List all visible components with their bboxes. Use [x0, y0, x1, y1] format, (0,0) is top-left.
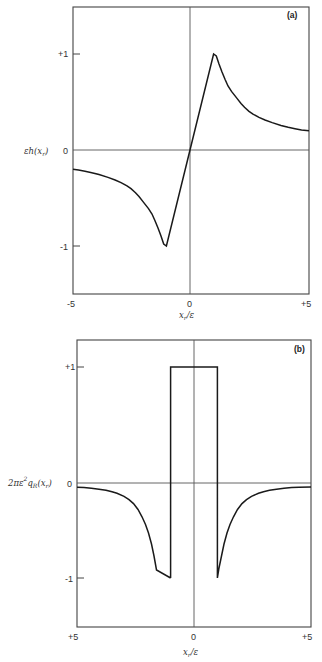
- x-axis-label-b: xr/ε: [183, 647, 199, 658]
- x-tick-label-b-left: +5: [68, 632, 78, 642]
- y-tick-label-a-bot: -1: [60, 242, 68, 252]
- y-tick-label-a-top: +1: [58, 49, 68, 59]
- chart-panel-a: (a) +1 0 -1 εh(xr) -5 0 +5 xr/ε: [24, 7, 311, 321]
- y-axis-label-a: εh(xr): [24, 146, 48, 157]
- y-tick-label-b-mid: 0: [67, 479, 72, 489]
- x-tick-label-a-left: -5: [67, 299, 75, 309]
- plot-frame-a: [73, 7, 309, 294]
- panel-label-a: (a): [287, 10, 298, 20]
- y-tick-label-a-mid: 0: [63, 146, 68, 156]
- x-tick-label-b-mid: 0: [191, 632, 196, 642]
- y-tick-label-b-bot: -1: [65, 574, 73, 584]
- x-axis-label-a: xr/ε: [179, 310, 195, 321]
- x-tick-label-a-right: +5: [301, 299, 311, 309]
- panel-label-b: (b): [294, 344, 305, 354]
- y-axis-label-b: 2πε2qR(xr): [7, 475, 52, 489]
- y-tick-label-b-top: +1: [65, 362, 75, 372]
- figure: (a) +1 0 -1 εh(xr) -5 0 +5 xr/ε (b) +1 0…: [0, 0, 322, 662]
- chart-panel-b: (b) +1 0 -1 2πε2qR(xr) +5 0 +5 xr/ε: [7, 340, 312, 658]
- x-tick-label-b-right: +5: [302, 632, 312, 642]
- x-tick-label-a-mid: 0: [187, 299, 192, 309]
